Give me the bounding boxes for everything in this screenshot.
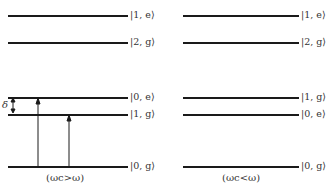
level-line-1e-right — [183, 15, 299, 17]
transition-arrows — [0, 0, 334, 192]
delta-double-arrow-icon — [11, 98, 15, 113]
level-label-1e-right: |1, e⟩ — [301, 10, 326, 20]
level-label-0g-right: |0, g⟩ — [301, 161, 326, 171]
arrow-up-icon — [36, 98, 40, 166]
level-label-1g-right: |1, g⟩ — [301, 92, 326, 102]
level-line-0g-right — [183, 166, 299, 168]
level-label-0e-right: |0, e⟩ — [301, 109, 326, 119]
arrow-up-icon — [67, 115, 71, 166]
level-line-1g-right — [183, 97, 299, 99]
level-line-0e-right — [183, 114, 299, 116]
level-line-2g-right — [183, 42, 299, 44]
right-caption: (ωc<ω) — [222, 172, 260, 183]
level-label-2g-right: |2, g⟩ — [301, 37, 326, 47]
